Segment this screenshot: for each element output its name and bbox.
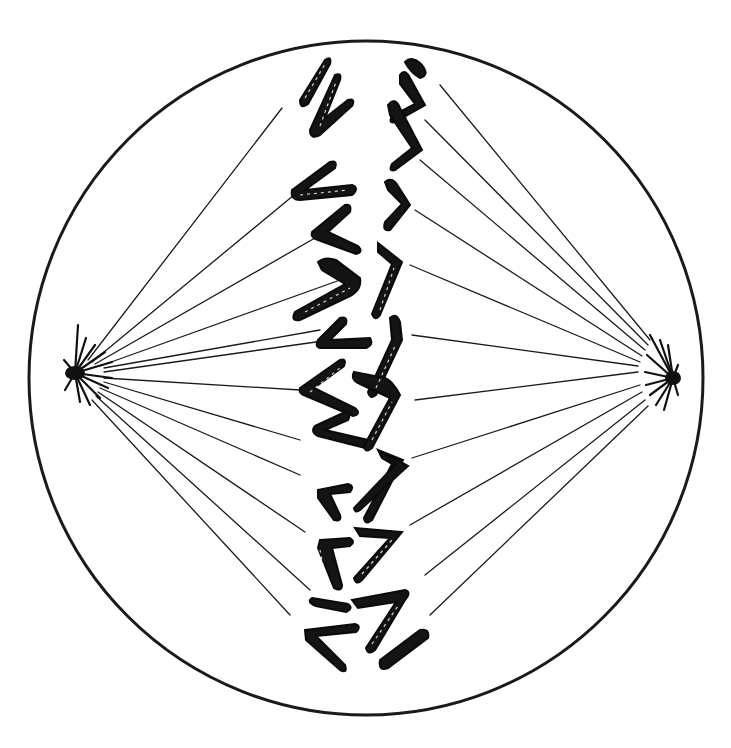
chromosome bbox=[352, 590, 409, 653]
chromosome bbox=[317, 318, 372, 348]
right-aster bbox=[645, 335, 681, 410]
right-spindle-fibers bbox=[410, 85, 650, 615]
chromosome bbox=[372, 243, 402, 318]
metaphase-cell-drawing: Cell in metaphase of mitosis bbox=[0, 0, 731, 748]
chromosome bbox=[293, 258, 360, 320]
chromosome bbox=[300, 360, 358, 416]
chromosome bbox=[318, 484, 352, 520]
chromosomes bbox=[292, 58, 429, 671]
chromosome bbox=[312, 205, 361, 254]
chromosome bbox=[380, 630, 429, 669]
chromosome bbox=[310, 598, 351, 612]
left-aster bbox=[64, 325, 112, 405]
cell-illustration bbox=[0, 0, 731, 748]
chromosome bbox=[354, 528, 402, 583]
chromosome bbox=[292, 162, 356, 200]
chromosome bbox=[313, 412, 370, 448]
chromosome bbox=[384, 180, 410, 231]
chromosome bbox=[305, 624, 359, 671]
